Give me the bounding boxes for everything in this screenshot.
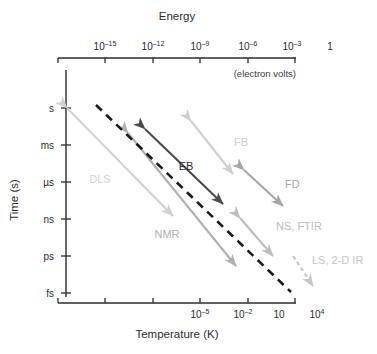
top-tick-label-1: 10–12 <box>142 40 165 52</box>
plot-canvas: Energy 10–15 10–12 10–9 10–6 10–3 1 (ele… <box>0 0 377 354</box>
bottom-tick-label-4: 10 <box>273 309 285 320</box>
bottom-tick-label-3: 10–2 <box>234 308 253 320</box>
arrow-fd <box>244 170 283 206</box>
left-time-axis: s ms µs ns ps fs Time (s) <box>8 70 71 299</box>
bottom-axis-tick-labels: 10–5 10–2 10 104 <box>191 308 325 320</box>
arrow-label-ns-ftir: NS, FTIR <box>276 220 322 232</box>
top-tick-label-2: 10–9 <box>191 40 210 52</box>
arrow-label-dls: DLS <box>89 173 110 185</box>
top-tick-label-0: 10–15 <box>94 40 117 52</box>
arrow-label-nmr: NMR <box>154 228 179 240</box>
top-axis-tick-labels: 10–15 10–12 10–9 10–6 10–3 1 <box>94 40 334 52</box>
left-tick-label-s: s <box>49 103 54 114</box>
arrow-label-fd: FD <box>285 178 300 190</box>
top-tick-label-5: 1 <box>327 41 333 52</box>
left-axis-title: Time (s) <box>8 179 20 221</box>
top-tick-label-3: 10–6 <box>239 40 258 52</box>
top-axis-title: Energy <box>159 10 196 22</box>
left-tick-label-ps: ps <box>43 251 54 262</box>
left-tick-label-us: µs <box>43 177 54 188</box>
arrow-label-eb: EB <box>179 160 194 172</box>
left-tick-label-fs: fs <box>46 288 54 299</box>
guide-dashed-line <box>96 105 291 292</box>
arrow-label-fb: FB <box>234 136 248 148</box>
left-tick-label-ms: ms <box>41 140 54 151</box>
top-tick-label-4: 10–3 <box>283 40 302 52</box>
arrow-ns-ftir <box>240 218 273 256</box>
energy-unit-note: (electron volts) <box>234 68 296 79</box>
top-energy-axis: Energy 10–15 10–12 10–9 10–6 10–3 1 (ele… <box>58 10 333 79</box>
arrow-dls <box>67 108 173 216</box>
bottom-axis-title: Temperature (K) <box>135 328 218 340</box>
bottom-tick-label-5: 104 <box>309 308 324 320</box>
left-tick-label-ns: ns <box>43 214 54 225</box>
arrow-ls-2d-ir <box>293 256 313 286</box>
bottom-tick-label-2: 10–5 <box>191 308 210 320</box>
arrow-fb <box>191 121 233 174</box>
arrow-label-ls-2d-ir: LS, 2-D IR <box>312 254 363 266</box>
bottom-temperature-axis: 10–5 10–2 10 104 Temperature (K) <box>58 298 325 340</box>
energy-time-temperature-figure: Energy 10–15 10–12 10–9 10–6 10–3 1 (ele… <box>0 0 377 354</box>
technique-arrows: DLS NMR EB FB FD NS, FTIR LS, 2-D IR <box>67 105 363 292</box>
